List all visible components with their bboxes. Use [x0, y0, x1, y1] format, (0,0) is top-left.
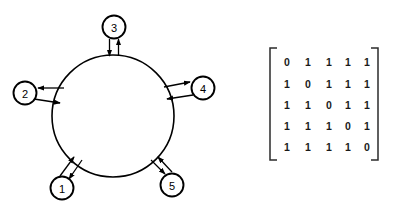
matrix-cell: 1: [345, 78, 351, 90]
matrix-cell: 1: [364, 56, 370, 68]
central-ring: [52, 55, 174, 177]
node-3-label: 3: [111, 22, 117, 34]
matrix-cell: 1: [305, 141, 311, 153]
matrix-left-bracket: [270, 48, 277, 160]
matrix-row: 1 1 1 0 1: [284, 120, 370, 132]
matrix-cell: 1: [305, 56, 311, 68]
matrix-cell: 0: [345, 120, 351, 132]
node-3[interactable]: 3: [103, 16, 126, 39]
link-node-4-into-node: [164, 82, 190, 87]
link-node-1-into-ring: [60, 157, 74, 176]
node-2-label: 2: [22, 88, 28, 100]
figure-canvas: 1 2 3 4 5 0 1 1 1 1: [0, 0, 402, 208]
figure-root: 1 2 3 4 5 0 1 1 1 1: [0, 0, 402, 208]
adjacency-matrix: 0 1 1 1 1 1 0 1 1 1 1 1 0 1 1 1: [270, 48, 378, 160]
matrix-cell: 1: [326, 120, 332, 132]
node-4[interactable]: 4: [192, 77, 215, 100]
matrix-cell: 1: [284, 120, 290, 132]
node-2[interactable]: 2: [14, 82, 37, 105]
matrix-cell: 1: [326, 56, 332, 68]
matrix-row: 1 1 0 1 1: [284, 99, 370, 111]
matrix-right-bracket: [371, 48, 378, 160]
matrix-row: 1 1 1 1 0: [284, 141, 370, 153]
matrix-cell: 1: [364, 78, 370, 90]
matrix-cell: 1: [284, 78, 290, 90]
matrix-cell: 0: [364, 141, 370, 153]
matrix-cell: 0: [305, 78, 311, 90]
node-5-label: 5: [169, 180, 175, 192]
node-1[interactable]: 1: [51, 177, 74, 200]
node-5[interactable]: 5: [161, 174, 184, 197]
matrix-cell: 1: [364, 99, 370, 111]
matrix-cell: 1: [284, 99, 290, 111]
node-4-label: 4: [200, 83, 206, 95]
link-node-3: [110, 39, 119, 56]
matrix-cell: 1: [345, 141, 351, 153]
matrix-cell: 1: [326, 78, 332, 90]
matrix-cell: 0: [326, 99, 332, 111]
matrix-cell: 1: [345, 56, 351, 68]
matrix-cell: 1: [305, 120, 311, 132]
matrix-row: 0 1 1 1 1: [284, 56, 370, 68]
node-1-label: 1: [59, 183, 65, 195]
ring-circle: [52, 55, 174, 177]
matrix-cell: 1: [284, 141, 290, 153]
matrix-cell: 0: [284, 56, 290, 68]
matrix-cell: 1: [364, 120, 370, 132]
matrix-row: 1 0 1 1 1: [284, 78, 370, 90]
matrix-cell: 1: [305, 99, 311, 111]
matrix-cell: 1: [345, 99, 351, 111]
matrix-cell: 1: [326, 141, 332, 153]
